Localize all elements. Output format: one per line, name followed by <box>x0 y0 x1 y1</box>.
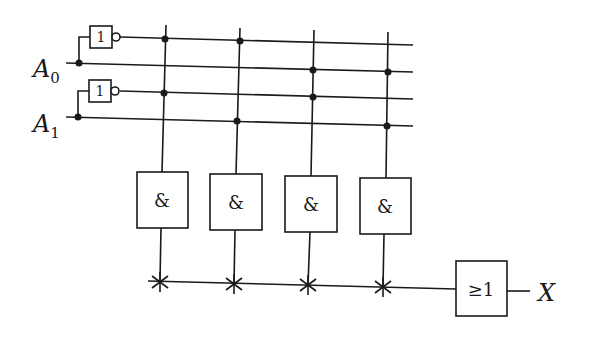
inversion-bubble-icon <box>112 33 120 41</box>
not-gate-a0-symbol: 1 <box>97 29 106 45</box>
and-output-wires <box>160 228 384 287</box>
output-label-x: X <box>536 279 556 307</box>
input-label-a0: A0 <box>31 55 60 87</box>
not-gate-a1: 1 <box>89 80 119 102</box>
a0-junction-dot <box>76 60 83 67</box>
or-gate-symbol: ≥1 <box>468 279 495 300</box>
and-gate-4: & <box>360 178 411 234</box>
logic-circuit-diagram: 1 1 A0 A1 & & & <box>0 0 591 337</box>
a0-branch-wire <box>79 37 90 63</box>
and-gate-4-symbol: & <box>377 196 393 217</box>
input-label-a1: A1 <box>31 110 60 142</box>
rail-junction-dots <box>161 36 392 130</box>
and-gate-3-symbol: & <box>303 194 319 215</box>
and-gate-1-symbol: & <box>154 190 170 211</box>
a1-branch-wire <box>78 91 89 117</box>
and-gate-1: & <box>137 172 188 228</box>
or-bus-wire <box>148 281 456 289</box>
or-gate: ≥1 <box>456 261 507 316</box>
inversion-bubble-icon <box>111 87 119 95</box>
and-gate-3: & <box>285 176 337 232</box>
and-gate-2-symbol: & <box>228 192 244 213</box>
vertical-wires <box>162 25 388 178</box>
a1-junction-dot <box>75 114 82 121</box>
not-gate-a0: 1 <box>90 26 120 48</box>
not-gate-a1-symbol: 1 <box>96 83 105 99</box>
and-gate-2: & <box>210 174 262 230</box>
